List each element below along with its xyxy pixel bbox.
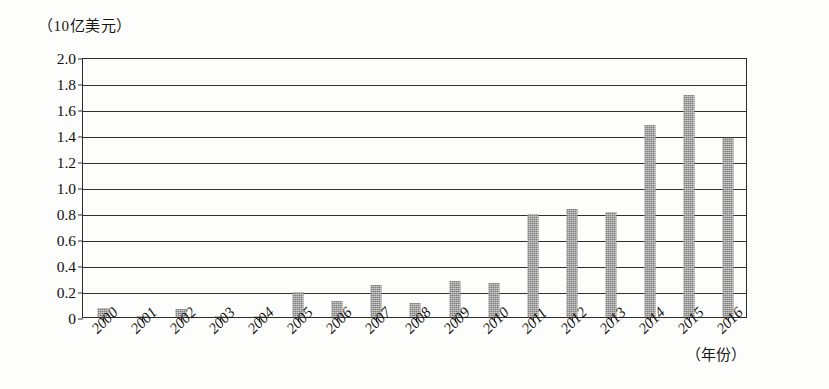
y-axis-tick-label: 1.0 [57,181,76,197]
bar-slot [279,59,318,317]
bar-slot [161,59,200,317]
bar-slot [357,59,396,317]
y-axis-tick-label: 0.4 [57,259,76,275]
y-axis-unit-label: （10亿美元） [38,14,132,35]
y-axis-tick-label: 1.2 [57,155,76,171]
bar-slot [552,59,591,317]
y-axis-tick-label: 0.2 [57,285,76,301]
y-axis-tick-label: 0.8 [57,207,76,223]
y-axis-tick-label: 1.4 [57,129,76,145]
y-axis-tick-label: 1.6 [57,103,76,119]
bar-slot [670,59,709,317]
bar-slot [513,59,552,317]
bar-slot [122,59,161,317]
bar [606,212,617,317]
y-axis-tick-label: 0.6 [57,233,76,249]
bar [645,125,656,317]
y-axis-tick-mark [78,319,83,320]
x-axis-unit-label: （年份） [686,343,746,364]
bar-slot [200,59,239,317]
bar-slot [396,59,435,317]
bar-slot [83,59,122,317]
bars-group [83,59,746,317]
bar [566,209,577,317]
bar-slot [592,59,631,317]
bar-slot [709,59,748,317]
chart-figure: （10亿美元） 2.01.81.61.41.21.00.80.60.40.20 … [0,0,829,389]
bar [684,95,695,317]
bar-slot [318,59,357,317]
y-axis-tick-label: 1.8 [57,77,76,93]
bar-slot [239,59,278,317]
bar [527,214,538,317]
y-axis-tick-label: 0 [68,311,76,327]
plot-area: 2.01.81.61.41.21.00.80.60.40.20 [82,58,747,318]
y-axis-tick-label: 2.0 [57,51,76,67]
bar [723,138,734,317]
bar-slot [474,59,513,317]
bar-slot [631,59,670,317]
bar-slot [435,59,474,317]
